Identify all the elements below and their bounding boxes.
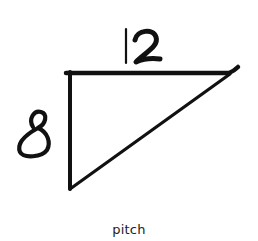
pitch-triangle-diagram: 12 8 bbox=[0, 0, 258, 241]
run-label-two bbox=[135, 31, 160, 62]
rise-label: 8 bbox=[0, 0, 49, 156]
run-label: 12 bbox=[0, 0, 160, 63]
run-line bbox=[66, 67, 238, 73]
hypotenuse-line bbox=[70, 74, 230, 189]
rise-label-glyph bbox=[19, 112, 49, 157]
diagram-caption: pitch bbox=[0, 222, 258, 237]
